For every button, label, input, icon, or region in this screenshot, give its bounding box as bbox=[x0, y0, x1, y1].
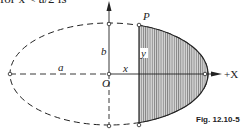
label-a: a bbox=[58, 61, 64, 73]
label-y: y bbox=[140, 47, 146, 59]
label-b: b bbox=[101, 45, 107, 57]
label-origin: O bbox=[102, 77, 110, 89]
point-p bbox=[137, 23, 141, 27]
vertex-right bbox=[203, 72, 207, 76]
figure-caption: Fig. 12.10-5 bbox=[196, 115, 240, 124]
ellipse-diagram: P b y a x O +X Fig. 12.10-5 bbox=[0, 0, 247, 131]
label-p: P bbox=[142, 10, 150, 22]
co-vertex-bottom bbox=[107, 124, 111, 128]
label-x-axis: +X bbox=[224, 68, 238, 80]
point-chord-bottom bbox=[137, 123, 141, 127]
origin-point bbox=[107, 72, 111, 76]
label-x: x bbox=[122, 62, 128, 74]
y-axis-arrow-icon bbox=[107, 1, 112, 11]
co-vertex-top bbox=[107, 22, 111, 26]
x-axis-arrow-icon bbox=[211, 72, 222, 77]
vertex-left bbox=[8, 72, 12, 76]
